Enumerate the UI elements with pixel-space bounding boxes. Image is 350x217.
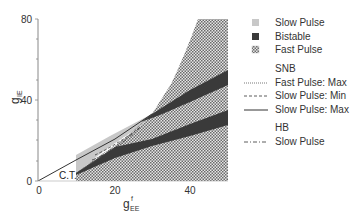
svg-text:g: g	[8, 97, 22, 104]
svg-text:EE: EE	[130, 205, 140, 212]
legend-label: Bistable	[275, 30, 311, 44]
x-tick-0: 0	[36, 185, 42, 196]
legend-label: Fast Pulse	[275, 43, 322, 57]
y-tick-0: 0	[26, 176, 32, 187]
y-tick-80: 80	[21, 14, 33, 25]
x-axis-label: g f EE	[123, 195, 140, 212]
bistable-swatch	[252, 33, 259, 40]
legend-item-slow-pulse: Slow Pulse	[244, 16, 350, 30]
legend-label: Fast Pulse: Max	[275, 76, 347, 90]
legend-label: Slow Pulse: Min	[275, 89, 346, 103]
legend: Slow Pulse Bistable Fast Pulse SNB Fast …	[244, 16, 350, 149]
legend-item-snb-fast-max: Fast Pulse: Max	[244, 76, 350, 90]
svg-text:f: f	[131, 195, 133, 202]
x-tick-40: 40	[184, 185, 196, 196]
legend-label: Slow Pulse	[275, 135, 324, 149]
slow-pulse-swatch	[252, 19, 259, 26]
fast-pulse-region	[76, 19, 228, 181]
legend-item-snb-slow-min: Slow Pulse: Min	[244, 89, 350, 103]
ct-annotation: C.T.	[59, 170, 77, 181]
x-tick-20: 20	[109, 185, 121, 196]
legend-label: Slow Pulse	[275, 16, 324, 30]
legend-item-fast-pulse: Fast Pulse	[244, 43, 350, 57]
legend-item-snb-slow-max: Slow Pulse: Max	[244, 103, 350, 117]
legend-heading-hb: HB	[244, 120, 350, 135]
fast-pulse-swatch	[252, 46, 259, 53]
svg-text:IE: IE	[16, 90, 23, 97]
legend-item-bistable: Bistable	[244, 30, 350, 44]
legend-item-hb-slow: Slow Pulse	[244, 135, 350, 149]
plot-area	[38, 19, 228, 181]
y-axis-label: g IE	[8, 90, 23, 104]
legend-heading-snb: SNB	[244, 61, 350, 76]
legend-label: Slow Pulse: Max	[275, 103, 349, 117]
svg-text:g: g	[123, 197, 130, 211]
